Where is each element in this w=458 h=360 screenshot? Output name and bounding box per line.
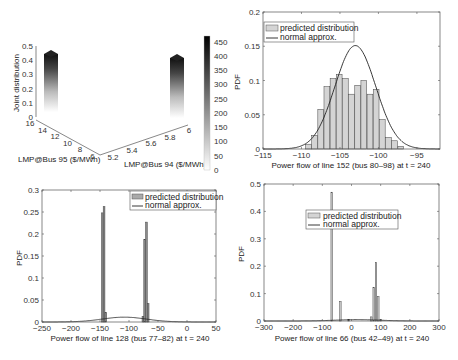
histogram-bar <box>375 262 376 321</box>
histogram-bar <box>342 78 348 149</box>
svg-text:8: 8 <box>78 145 83 154</box>
svg-text:0.1: 0.1 <box>250 290 262 299</box>
svg-text:16: 16 <box>26 119 35 128</box>
svg-text:50: 50 <box>214 152 223 161</box>
svg-text:0.15: 0.15 <box>244 42 260 51</box>
legend: predicted distribution normal approx. <box>130 191 224 210</box>
histogram-bar <box>373 89 379 149</box>
legend: predicted distribution normal approx. <box>264 22 359 42</box>
svg-text:250: 250 <box>214 95 228 104</box>
svg-text:0.3: 0.3 <box>22 70 34 79</box>
y-axis-label-bus94: LMP@Bus 94 ($/MWh) <box>124 160 207 169</box>
histogram-bar <box>392 141 398 149</box>
svg-text:−100: −100 <box>120 324 139 333</box>
histogram-bar <box>146 222 148 322</box>
svg-text:0: 0 <box>257 317 262 326</box>
histogram-bar <box>306 144 312 149</box>
svg-text:0.4: 0.4 <box>250 207 262 216</box>
svg-text:0.05: 0.05 <box>23 296 39 305</box>
3d-bar-2 <box>170 54 184 118</box>
svg-text:−50: −50 <box>151 324 165 333</box>
histogram-bar <box>101 213 103 322</box>
histogram-bar <box>378 297 379 321</box>
y-axis-label: PDF <box>15 250 24 266</box>
histogram-bar <box>373 287 374 321</box>
svg-text:6: 6 <box>187 126 192 135</box>
svg-text:300: 300 <box>432 323 446 332</box>
histogram-bar <box>103 207 105 322</box>
svg-text:5.6: 5.6 <box>145 139 157 148</box>
svg-text:200: 200 <box>214 109 228 118</box>
svg-text:0.1: 0.1 <box>249 77 261 86</box>
svg-text:−110: −110 <box>293 151 311 160</box>
svg-text:0.15: 0.15 <box>23 252 39 261</box>
histogram-bar <box>142 316 144 322</box>
svg-text:5.4: 5.4 <box>126 146 138 155</box>
svg-text:0: 0 <box>214 166 219 175</box>
svg-text:normal approx.: normal approx. <box>280 32 337 42</box>
svg-text:0.3: 0.3 <box>28 186 40 195</box>
svg-text:12: 12 <box>51 132 60 141</box>
svg-text:0.2: 0.2 <box>22 85 34 94</box>
joint-distribution-3d-plot: 00.10.20.30.40.5 Joint distribution 1614… <box>12 36 228 175</box>
svg-text:50: 50 <box>212 324 221 333</box>
histogram-bar <box>371 317 372 321</box>
svg-text:0.2: 0.2 <box>249 8 261 17</box>
svg-text:100: 100 <box>214 137 228 146</box>
svg-text:−100: −100 <box>369 151 388 160</box>
histogram-bar <box>361 81 367 150</box>
svg-text:150: 150 <box>214 123 228 132</box>
svg-text:5.8: 5.8 <box>164 133 176 142</box>
histogram-bar <box>105 312 107 322</box>
svg-text:300: 300 <box>214 80 228 89</box>
histogram-bar <box>324 87 330 149</box>
histogram-bar <box>367 94 373 149</box>
x-axis-label: Power flow of line 152 (bus 80–98) at t … <box>272 161 432 170</box>
svg-text:0.5: 0.5 <box>22 42 34 51</box>
svg-text:0: 0 <box>256 145 261 154</box>
histogram-bar <box>330 78 336 149</box>
svg-text:450: 450 <box>214 38 228 47</box>
svg-text:0.1: 0.1 <box>22 99 34 108</box>
line-66-histogram: −300−200−100010020030000.10.20.30.40.5 P… <box>237 180 446 343</box>
histogram-bar <box>340 302 341 321</box>
svg-text:0.3: 0.3 <box>250 235 262 244</box>
svg-text:400: 400 <box>214 52 228 61</box>
legend: predicted distribution normal approx. <box>306 210 402 229</box>
svg-text:−200: −200 <box>284 323 303 332</box>
x-axis-label-bus95: LMP@Bus 95 ($/MWh) <box>18 155 101 164</box>
svg-text:350: 350 <box>214 66 228 75</box>
figure: 00.10.20.30.40.5 Joint distribution 1614… <box>0 0 458 360</box>
svg-text:0.05: 0.05 <box>244 111 260 120</box>
histogram-bar <box>355 85 361 149</box>
histogram-bar <box>379 120 385 149</box>
line-152-histogram: −115−110−105−100−9500.050.10.150.2 PDF P… <box>233 8 440 170</box>
svg-text:−105: −105 <box>331 151 350 160</box>
x-axis-label: Power flow of line 66 (bus 42–49) at t =… <box>275 334 430 343</box>
x-axis-label: Power flow of line 128 (bus 77–82) at t … <box>51 334 211 343</box>
svg-text:normal approx.: normal approx. <box>323 219 380 229</box>
svg-text:0.2: 0.2 <box>250 262 262 271</box>
y-axis-label: PDF <box>233 74 242 90</box>
histogram-bar <box>386 137 392 149</box>
svg-text:0.4: 0.4 <box>22 56 34 65</box>
y-axis-label: PDF <box>237 246 246 262</box>
line-128-histogram: −250−200−150−100−5005000.050.10.150.20.2… <box>15 186 224 343</box>
histogram-bar <box>398 146 404 149</box>
z-axis-label: Joint distribution <box>12 54 21 112</box>
svg-text:0: 0 <box>185 324 190 333</box>
histogram-bar <box>349 94 355 149</box>
svg-text:0.5: 0.5 <box>250 180 262 189</box>
colorbar <box>204 36 210 170</box>
svg-text:200: 200 <box>403 323 417 332</box>
svg-text:5.2: 5.2 <box>107 153 119 162</box>
svg-text:14: 14 <box>38 126 47 135</box>
svg-text:−150: −150 <box>91 324 110 333</box>
svg-text:100: 100 <box>374 323 388 332</box>
svg-text:0.25: 0.25 <box>23 208 39 217</box>
svg-text:0: 0 <box>35 318 40 327</box>
svg-text:−95: −95 <box>410 151 424 160</box>
3d-bar-1 <box>44 50 58 112</box>
svg-text:0.1: 0.1 <box>28 274 40 283</box>
svg-text:10: 10 <box>63 139 72 148</box>
